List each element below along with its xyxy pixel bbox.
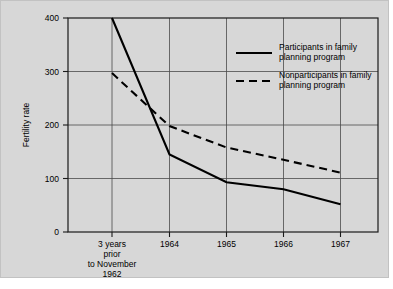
fertility-rate-line-chart: 400 300 200 100 0 Fertility rate 3 years…	[0, 0, 393, 289]
x-tick-label-1965: 1965	[217, 239, 236, 249]
y-axis-ticks	[63, 18, 68, 232]
x-tick-label-1962-line4: 1962	[103, 269, 122, 279]
legend-label-nonparticipants-line1: Nonparticipants in family	[279, 70, 372, 80]
x-tick-label-1966: 1966	[274, 239, 293, 249]
x-tick-label-1962-line2: prior	[103, 249, 120, 259]
legend-label-nonparticipants-line2: planning program	[279, 80, 345, 90]
figure-container: 400 300 200 100 0 Fertility rate 3 years…	[0, 0, 393, 289]
legend-label-participants-line1: Participants in family	[279, 42, 358, 52]
y-tick-label-0: 0	[54, 227, 59, 237]
y-tick-label-400: 400	[45, 13, 59, 23]
y-tick-label-100: 100	[45, 174, 59, 184]
x-tick-label-1967: 1967	[331, 239, 350, 249]
y-axis-title: Fertility rate	[21, 103, 31, 148]
legend-label-participants-line2: planning program	[279, 52, 345, 62]
x-tick-label-1962-line3: to November	[88, 259, 137, 269]
y-tick-label-200: 200	[45, 120, 59, 130]
x-tick-label-1962-group: 3 years prior to November 1962	[88, 239, 137, 279]
x-tick-label-1962-line1: 3 years	[98, 239, 126, 249]
x-axis-ticks	[112, 232, 341, 237]
x-tick-label-1964: 1964	[160, 239, 179, 249]
y-tick-label-300: 300	[45, 67, 59, 77]
legend: Participants in family planning program …	[236, 42, 372, 90]
